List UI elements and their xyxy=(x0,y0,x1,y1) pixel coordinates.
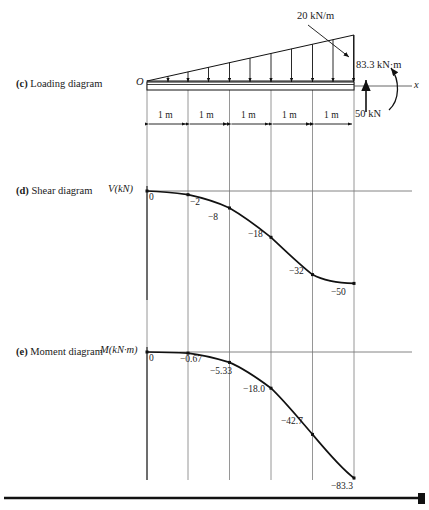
beam xyxy=(147,82,354,90)
end-force-label: 50 kN xyxy=(355,108,381,119)
moment-value-0: 0 xyxy=(149,353,154,363)
moment-axis-label: M(kN·m) xyxy=(100,344,138,355)
moment-value-2: −5.33 xyxy=(210,366,232,376)
moment-data-points xyxy=(146,351,356,480)
moment-value-5: −83.3 xyxy=(331,481,353,491)
moment-diagram-group xyxy=(146,347,413,480)
section-caption-shear: (d) Shear diagram xyxy=(16,185,92,196)
triangular-load-outline xyxy=(147,35,354,81)
dimension-label-4: 1 m xyxy=(282,110,297,120)
section-title-shear: Shear diagram xyxy=(31,185,92,196)
section-tag-c: (c) xyxy=(16,78,28,89)
dimension-label-1: 1 m xyxy=(158,110,173,120)
shear-value-2: −8 xyxy=(208,212,218,222)
distributed-load-arrows xyxy=(168,35,354,82)
section-caption-moment: (e) Moment diagram xyxy=(16,346,103,357)
x-axis-label: x xyxy=(414,79,419,90)
moment-value-1: −0.67 xyxy=(180,354,202,364)
shear-value-5: −50 xyxy=(331,287,346,297)
dimension-label-5: 1 m xyxy=(324,110,339,120)
section-tag-e: (e) xyxy=(16,346,28,357)
moment-value-3: −18.0 xyxy=(243,384,265,394)
distributed-load-leader xyxy=(308,25,349,57)
section-caption-loading: (c) Loading diagram xyxy=(16,78,102,89)
shear-axis-label: V(kN) xyxy=(108,183,133,194)
section-tag-d: (d) xyxy=(16,185,29,196)
distributed-load-label: 20 kN/m xyxy=(297,10,334,21)
shear-diagram-group xyxy=(146,186,413,300)
shear-value-3: −18 xyxy=(248,229,263,239)
section-title-moment: Moment diagram xyxy=(30,346,103,357)
moment-curve xyxy=(147,352,354,478)
origin-label: O xyxy=(136,76,144,87)
shear-value-4: −32 xyxy=(289,266,304,276)
moment-value-4: −42.7 xyxy=(281,416,303,426)
bottom-rule xyxy=(4,493,425,504)
end-moment-arc xyxy=(389,68,398,110)
beam-analysis-figure xyxy=(0,0,429,510)
shear-value-0: 0 xyxy=(149,192,154,202)
dimension-label-3: 1 m xyxy=(241,110,256,120)
dimension-label-2: 1 m xyxy=(199,110,214,120)
shear-value-1: −2 xyxy=(190,197,200,207)
station-gridlines xyxy=(147,80,354,480)
end-moment-label: 83.3 kN·m xyxy=(356,59,402,70)
section-title-loading: Loading diagram xyxy=(30,78,102,89)
